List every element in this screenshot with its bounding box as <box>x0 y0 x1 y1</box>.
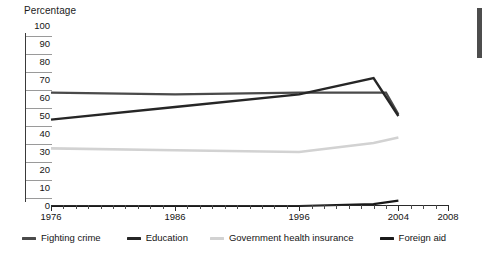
y-axis-tick-label: 10 <box>26 183 52 193</box>
y-axis-tick <box>26 54 52 55</box>
x-axis-minor-tick <box>163 205 164 209</box>
y-axis-tick-label: 0 <box>26 201 52 211</box>
x-axis-minor-tick <box>324 205 325 209</box>
y-axis-tick-label: 100 <box>26 21 52 31</box>
x-axis-minor-tick <box>250 205 251 209</box>
plot-area <box>51 26 448 206</box>
x-axis-minor-tick <box>374 205 375 209</box>
y-axis-caption: Percentage <box>24 5 76 16</box>
x-axis-minor-tick <box>88 205 89 209</box>
y-axis-tick <box>26 180 52 181</box>
x-axis-minor-tick <box>312 205 313 209</box>
y-axis: 0102030405060708090100 <box>25 33 52 202</box>
legend-item[interactable]: Foreign aid <box>380 233 447 243</box>
x-axis-minor-tick <box>274 205 275 209</box>
x-axis-tick-label: 2004 <box>388 211 409 222</box>
legend-label: Government health insurance <box>229 233 354 243</box>
x-axis-minor-tick <box>349 205 350 209</box>
x-axis-minor-tick <box>225 205 226 209</box>
y-axis-tick <box>26 90 52 91</box>
chart-container: Percentage 0102030405060708090100 197619… <box>0 0 489 255</box>
x-axis-minor-tick <box>237 205 238 209</box>
y-axis-tick <box>26 126 52 127</box>
x-axis-minor-tick <box>287 205 288 209</box>
legend-swatch-icon <box>380 237 394 240</box>
x-axis-minor-tick <box>200 205 201 209</box>
x-axis-tick-label: 1996 <box>289 211 310 222</box>
y-axis-tick <box>26 108 52 109</box>
x-axis-tick-label: 2008 <box>437 211 458 222</box>
legend-swatch-icon <box>127 237 141 240</box>
legend-label: Fighting crime <box>41 233 101 243</box>
y-axis-tick <box>26 36 52 37</box>
y-axis-tick-label: 20 <box>26 165 52 175</box>
x-axis-minor-tick <box>150 205 151 209</box>
x-axis-minor-tick <box>212 205 213 209</box>
y-axis-tick <box>26 72 52 73</box>
x-axis-minor-tick <box>63 205 64 209</box>
x-axis-minor-tick <box>423 205 424 209</box>
right-edge-bar <box>477 8 482 58</box>
legend-item[interactable]: Education <box>127 233 188 243</box>
legend-swatch-icon <box>210 237 224 240</box>
x-axis-minor-tick <box>436 205 437 209</box>
series-line <box>51 138 398 152</box>
x-axis-tick-label: 1976 <box>40 211 61 222</box>
y-axis-tick <box>26 144 52 145</box>
x-axis-minor-tick <box>336 205 337 209</box>
x-axis-minor-tick <box>411 205 412 209</box>
chart-legend: Fighting crimeEducationGovernment health… <box>22 229 472 247</box>
x-axis-minor-tick <box>187 205 188 209</box>
legend-label: Education <box>146 233 188 243</box>
series-line <box>51 78 398 119</box>
y-axis-tick <box>26 162 52 163</box>
x-axis-minor-tick <box>262 205 263 209</box>
x-axis-minor-tick <box>101 205 102 209</box>
series-line <box>51 93 398 115</box>
series-lines <box>51 26 448 206</box>
x-axis-minor-tick <box>138 205 139 209</box>
x-axis-tick-label: 1986 <box>164 211 185 222</box>
x-axis-minor-tick <box>113 205 114 209</box>
y-axis-tick-label: 90 <box>26 39 52 49</box>
y-axis-tick-label: 30 <box>26 147 52 157</box>
x-axis-minor-tick <box>361 205 362 209</box>
x-axis-minor-tick <box>125 205 126 209</box>
x-axis-minor-tick <box>386 205 387 209</box>
legend-swatch-icon <box>22 237 36 240</box>
y-axis-tick-label: 60 <box>26 93 52 103</box>
legend-item[interactable]: Fighting crime <box>22 233 101 243</box>
legend-item[interactable]: Government health insurance <box>210 233 354 243</box>
x-axis-minor-tick <box>76 205 77 209</box>
y-axis-tick-label: 80 <box>26 57 52 67</box>
legend-label: Foreign aid <box>399 233 447 243</box>
y-axis-tick-label: 70 <box>26 75 52 85</box>
y-axis-tick-label: 40 <box>26 129 52 139</box>
y-axis-tick-label: 50 <box>26 111 52 121</box>
y-axis-tick <box>26 198 52 199</box>
